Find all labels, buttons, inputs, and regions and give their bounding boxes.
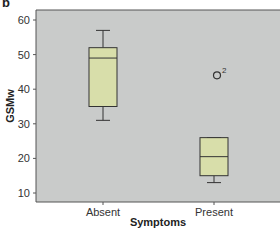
x-axis-label: Symptoms xyxy=(130,216,186,228)
y-tick-label: 50 xyxy=(18,49,30,61)
y-tick-label: 10 xyxy=(18,187,30,199)
y-tick-label: 20 xyxy=(18,152,30,164)
y-tick-label: 60 xyxy=(18,14,30,26)
plot-area xyxy=(36,10,280,202)
x-tick-label: Absent xyxy=(86,206,120,218)
x-tick-label: Present xyxy=(195,206,233,218)
y-tick-label: 40 xyxy=(18,83,30,95)
box-absent xyxy=(89,48,117,107)
outlier-label: 2 xyxy=(222,66,227,75)
y-axis-label: GSMw xyxy=(4,89,16,123)
y-tick-label: 30 xyxy=(18,118,30,130)
box-plot: 102030405060GSMwAbsentPresentSymptoms2 xyxy=(0,0,280,229)
